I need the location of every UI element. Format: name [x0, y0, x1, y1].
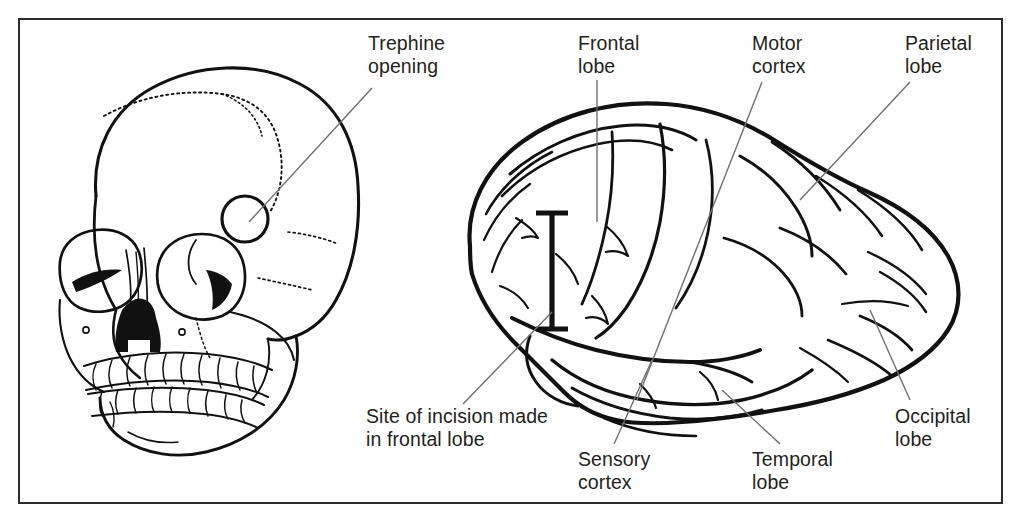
right-orbit-fissure — [206, 270, 232, 310]
parietal-fold-f — [842, 301, 908, 306]
label-site-of-incision: Site of incision made in frontal lobe — [366, 405, 548, 451]
right-orbit-inner-curve — [189, 240, 197, 284]
coronal-suture — [104, 92, 282, 212]
supramarginal-gyrus — [724, 238, 802, 316]
figure-canvas: Trephine opening Frontal lobe Motor cort… — [0, 0, 1018, 522]
cheek-suture — [196, 318, 210, 358]
left-orbit-fissure — [72, 270, 122, 293]
temporal-fold-a — [700, 372, 718, 400]
zygomatic-arch — [230, 312, 294, 360]
label-frontal-lobe: Frontal lobe — [578, 32, 639, 78]
infraorbital-foramen-right — [179, 329, 185, 335]
frontal-gyrus-fold-a — [486, 152, 552, 214]
central-branch-b — [586, 296, 608, 324]
preoccipital-notch — [800, 348, 848, 382]
trephine-opening-circle — [222, 196, 268, 242]
label-motor-cortex: Motor cortex — [752, 32, 806, 78]
central-branch-a — [606, 226, 628, 256]
occipital-gyrus-c — [880, 272, 926, 312]
parietal-fold-e — [868, 252, 926, 294]
mental-protuberance — [128, 432, 178, 443]
lower-teeth-arch — [88, 388, 264, 405]
frontal-small-sulcus — [516, 218, 538, 238]
lower-teeth-base — [92, 412, 258, 428]
brain-illustration — [469, 103, 958, 436]
right-orbit-outline — [157, 234, 245, 320]
occipital-gyrus-b — [828, 340, 892, 376]
label-parietal-lobe: Parietal lobe — [905, 32, 972, 78]
parietal-gyrus-a — [740, 156, 812, 256]
nasal-bridge-left — [126, 250, 131, 308]
skull-illustration — [59, 68, 358, 455]
leader-line-parietal-lobe — [800, 82, 910, 200]
parietal-gyrus-b — [772, 142, 840, 210]
temporal-line — [258, 278, 312, 290]
label-occipital-lobe: Occipital lobe — [895, 405, 971, 451]
label-sensory-cortex: Sensory cortex — [578, 448, 650, 494]
suture-branch-upper — [222, 94, 262, 136]
frontal-sulcus-short — [500, 286, 528, 308]
maxilla-contour — [59, 300, 104, 392]
nasal-bridge-right — [144, 248, 147, 308]
frontal-operculum-sulcus — [556, 254, 578, 284]
parietal-gyrus-d — [858, 190, 922, 250]
leader-line-site-of-incision — [463, 312, 552, 404]
leader-line-occipital-lobe — [870, 310, 910, 400]
skull-lower-left-contour — [94, 196, 116, 310]
frontal-gyrus-fold-c — [492, 220, 522, 272]
lateral-sulcus — [512, 318, 760, 362]
label-temporal-lobe: Temporal lobe — [752, 448, 833, 494]
label-trephine-opening: Trephine opening — [368, 32, 445, 78]
infraorbital-foramen-left — [83, 327, 89, 333]
squamous-suture — [288, 232, 338, 244]
